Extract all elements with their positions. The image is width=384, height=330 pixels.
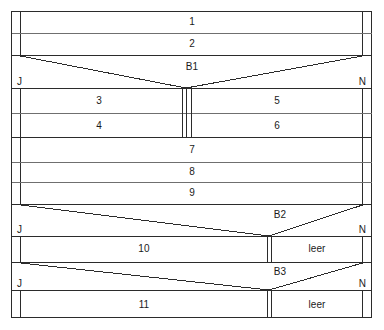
band-label-4: 4 (96, 121, 102, 131)
taper-b1-left (21, 56, 187, 88)
edge-marker-n-b1: N (359, 77, 366, 87)
band-label-3: 3 (96, 96, 102, 106)
band-label-11: 11 (139, 300, 150, 310)
band-label-10: 10 (138, 244, 149, 254)
band-label-2: 2 (189, 39, 195, 49)
diagram-canvas: 1 2 B1 J N 3 5 4 6 7 8 9 B2 J N 10 leer … (0, 0, 384, 330)
band-label-b2: B2 (274, 210, 286, 220)
band-label-leer-lower: leer (308, 300, 325, 310)
edge-marker-n-b3: N (359, 279, 366, 289)
band-label-9: 9 (189, 188, 195, 198)
edge-marker-j-b1: J (17, 77, 22, 87)
taper-b1-right (186, 56, 363, 88)
band-label-7: 7 (189, 145, 195, 155)
band-label-8: 8 (189, 167, 195, 177)
band-label-b3: B3 (274, 267, 286, 277)
edge-marker-j-b2: J (17, 225, 22, 235)
band-label-b1: B1 (186, 62, 198, 72)
edge-marker-j-b3: J (17, 279, 22, 289)
taper-b2-left (21, 205, 270, 236)
outer-frame (12, 12, 372, 318)
band-label-5: 5 (274, 96, 280, 106)
diagram-linework (0, 0, 384, 330)
band-label-6: 6 (274, 121, 280, 131)
band-label-1: 1 (189, 17, 195, 27)
edge-marker-n-b2: N (359, 225, 366, 235)
taper-b3-left (21, 263, 270, 290)
band-label-leer-upper: leer (308, 244, 325, 254)
